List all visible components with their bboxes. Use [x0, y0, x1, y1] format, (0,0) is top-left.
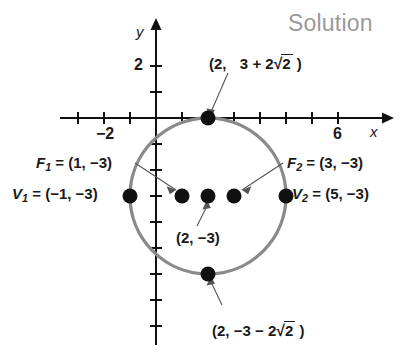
label-vertex-1-equation: = (−1, −3): [32, 185, 97, 202]
label-top-point: (2, 3 + 2√2 ): [209, 56, 302, 72]
label-vertex-2-name: V: [292, 185, 302, 202]
label-top-yint: 3: [240, 55, 248, 72]
label-vertex-2-subscript: 2: [302, 192, 308, 204]
label-focus-1: F1 = (1, −3): [36, 155, 112, 173]
label-bottom-close: ): [299, 322, 304, 339]
point-center: [201, 189, 216, 204]
figure-canvas: Solution y x 2 −2 6 (2, 3 + 2√2 ) F1 = (…: [0, 0, 405, 363]
label-focus-2-name: F: [287, 154, 296, 171]
label-vertex-2: V2 = (5, −3): [292, 186, 369, 204]
label-vertex-1-name: V: [12, 185, 22, 202]
page-title: Solution: [288, 12, 373, 35]
label-top-open: (2,: [209, 55, 227, 72]
label-focus-1-subscript: 1: [45, 161, 51, 173]
coordinate-plane-graphic: [0, 0, 405, 363]
x-tick-label-neg2: −2: [96, 126, 114, 142]
x-axis-label: x: [370, 124, 378, 139]
label-focus-1-name: F: [36, 154, 45, 171]
label-focus-2: F2 = (3, −3): [287, 155, 363, 173]
point-focus-2: [227, 189, 242, 204]
y-axis-label: y: [136, 24, 144, 39]
label-center-point: (2, −3): [176, 230, 220, 245]
label-top-coefficient: 2: [265, 55, 273, 72]
label-bottom-yint: −3: [234, 322, 251, 339]
label-top-radicand: 2: [281, 54, 292, 72]
label-vertex-1-subscript: 1: [22, 192, 28, 204]
label-top-close: ): [297, 55, 302, 72]
label-top-operator: +: [252, 55, 261, 72]
label-vertex-2-equation: = (5, −3): [312, 185, 369, 202]
x-tick-label-6: 6: [333, 126, 342, 142]
point-bottom: [201, 267, 216, 282]
point-vertex-1: [123, 189, 138, 204]
label-focus-2-equation: = (3, −3): [306, 154, 363, 171]
plotted-points: [123, 111, 294, 282]
y-tick-label-2: 2: [134, 57, 143, 73]
label-bottom-open: (2,: [212, 322, 230, 339]
label-focus-1-equation: = (1, −3): [55, 154, 112, 171]
y-axis: [150, 18, 162, 345]
label-bottom-point: (2, −3 − 2√2 ): [212, 323, 304, 339]
point-focus-1: [175, 189, 190, 204]
label-bottom-operator: −: [255, 322, 264, 339]
label-bottom-coefficient: 2: [268, 322, 276, 339]
x-axis: [60, 112, 394, 124]
label-focus-2-subscript: 2: [296, 161, 302, 173]
point-top: [201, 111, 216, 126]
label-bottom-radicand: 2: [284, 321, 295, 339]
label-vertex-1: V1 = (−1, −3): [12, 186, 98, 204]
